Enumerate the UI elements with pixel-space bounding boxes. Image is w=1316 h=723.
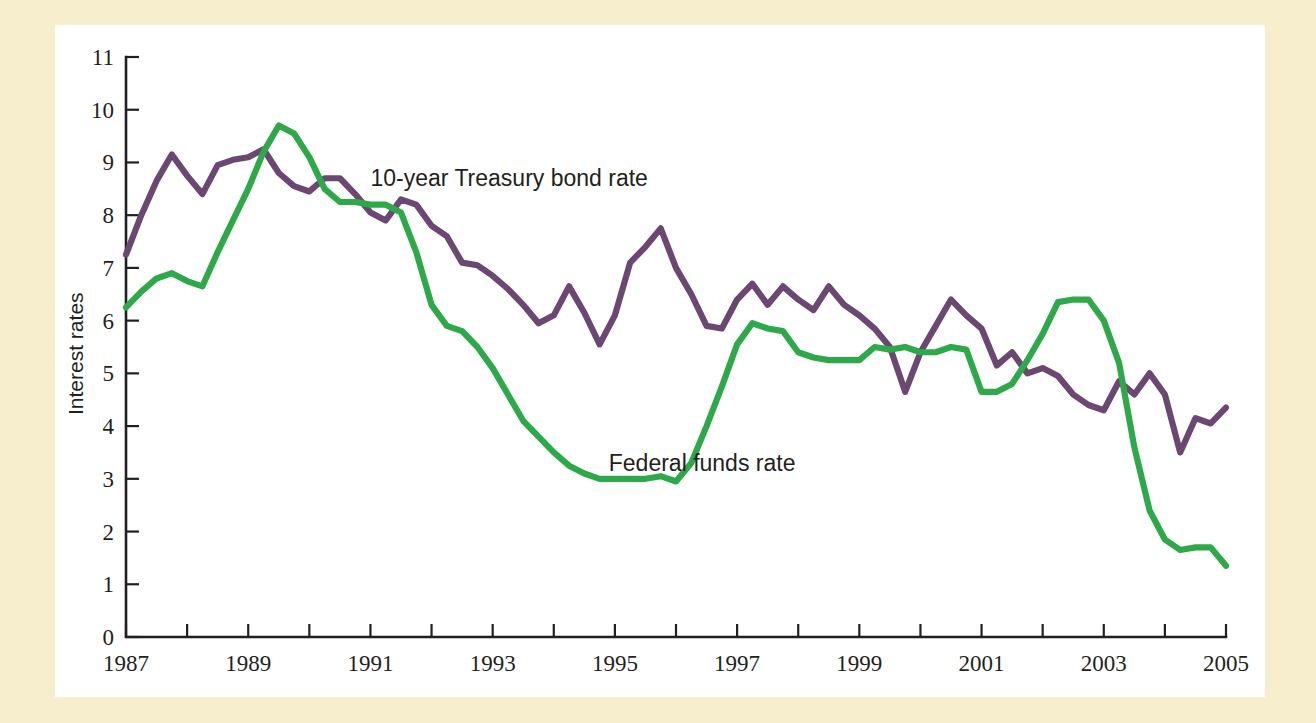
y-axis-ticks: 01234567891011 (91, 45, 139, 650)
y-tick-label: 7 (103, 256, 115, 281)
figure-container: 01234567891011 1987198919911993199519971… (0, 0, 1316, 723)
y-tick-label: 5 (103, 361, 115, 386)
series-annotation-0: 10-year Treasury bond rate (370, 165, 647, 191)
x-tick-label: 1989 (225, 651, 271, 676)
axis-frame (126, 57, 1226, 637)
x-tick-label: 1999 (836, 651, 882, 676)
y-tick-label: 0 (103, 625, 115, 650)
y-tick-label: 3 (103, 467, 115, 492)
x-tick-label: 2005 (1203, 651, 1249, 676)
x-tick-label: 1997 (714, 651, 760, 676)
series-annotations: 10-year Treasury bond rateFederal funds … (370, 165, 795, 476)
y-tick-label: 8 (103, 203, 115, 228)
y-tick-label: 11 (92, 45, 114, 70)
x-tick-label: 1995 (592, 651, 638, 676)
x-tick-label: 1991 (347, 651, 393, 676)
x-tick-label: 2003 (1081, 651, 1127, 676)
y-axis-title: Interest rates (64, 292, 87, 415)
y-tick-label: 10 (91, 98, 114, 123)
y-tick-label: 6 (103, 309, 115, 334)
series-line-1 (126, 126, 1226, 566)
x-axis-ticks: 1987198919911993199519971999200120032005 (103, 624, 1249, 676)
y-tick-label: 2 (103, 520, 115, 545)
y-tick-label: 9 (103, 150, 115, 175)
y-tick-label: 1 (103, 572, 115, 597)
series-annotation-1: Federal funds rate (609, 450, 796, 476)
y-tick-label: 4 (103, 414, 115, 439)
x-tick-label: 2001 (959, 651, 1005, 676)
series-lines (126, 126, 1226, 566)
x-tick-label: 1987 (103, 651, 149, 676)
chart-svg: 01234567891011 1987198919911993199519971… (0, 0, 1316, 723)
x-tick-label: 1993 (470, 651, 516, 676)
